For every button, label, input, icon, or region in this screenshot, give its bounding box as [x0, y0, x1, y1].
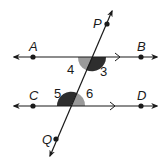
label-a: A: [28, 39, 38, 54]
angle-label-3: 3: [100, 64, 107, 79]
point-d: [138, 103, 143, 108]
angle-label-6: 6: [86, 86, 93, 101]
geometry-diagram: A B C D P Q 4 3 5 6: [0, 0, 168, 164]
label-b: B: [137, 39, 146, 54]
transversal-pq: [50, 11, 112, 156]
label-p: P: [93, 16, 102, 31]
label-q: Q: [42, 132, 52, 147]
point-b: [138, 54, 143, 59]
point-q: [53, 136, 58, 141]
label-c: C: [29, 88, 39, 103]
point-c: [30, 103, 35, 108]
angle-label-4: 4: [67, 62, 74, 77]
point-a: [30, 54, 35, 59]
angle-label-5: 5: [54, 86, 61, 101]
point-p: [104, 21, 109, 26]
label-d: D: [137, 88, 146, 103]
